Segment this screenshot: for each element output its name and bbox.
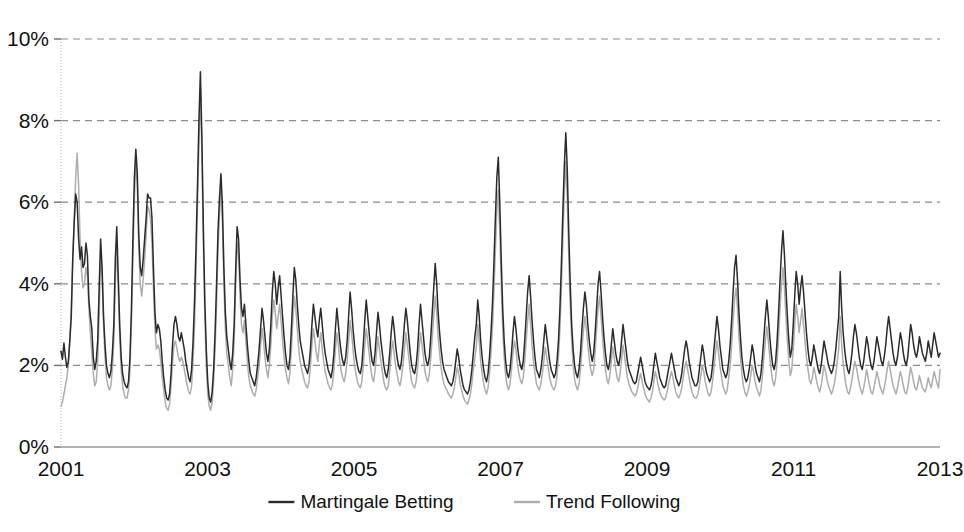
y-tick-label: 6% bbox=[19, 190, 49, 213]
x-tick-label: 2009 bbox=[624, 457, 671, 480]
y-tick-label: 8% bbox=[19, 109, 49, 132]
y-tick-label: 2% bbox=[19, 353, 49, 376]
y-tick-label: 10% bbox=[7, 27, 49, 50]
x-tick-label: 2013 bbox=[917, 457, 964, 480]
x-tick-label: 2005 bbox=[331, 457, 378, 480]
x-tick-label: 2001 bbox=[38, 457, 85, 480]
chart-container: 0%2%4%6%8%10% 20012003200520072009201120… bbox=[0, 0, 964, 532]
legend-label-trend-following: Trend Following bbox=[546, 491, 680, 512]
x-tick-label: 2007 bbox=[477, 457, 524, 480]
y-tick-label: 4% bbox=[19, 272, 49, 295]
x-tick-label: 2003 bbox=[184, 457, 231, 480]
legend-label-martingale-betting: Martingale Betting bbox=[300, 491, 453, 512]
x-tick-label: 2011 bbox=[771, 457, 816, 480]
line-chart: 0%2%4%6%8%10% 20012003200520072009201120… bbox=[0, 0, 964, 532]
y-tick-label: 0% bbox=[19, 435, 49, 458]
